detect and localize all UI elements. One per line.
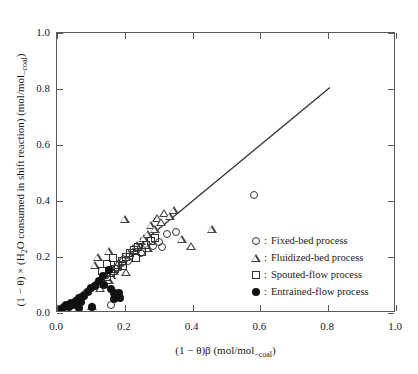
- data-point-triangle-open: [169, 206, 179, 214]
- legend-marker-circle-open-icon: [249, 234, 263, 248]
- square-open-icon: [252, 271, 260, 279]
- legend-marker-triangle-open-icon: [249, 251, 263, 265]
- scatter-plot-figure: (1 − θ) × (H2O consumed in shift reactio…: [0, 0, 418, 374]
- legend-separator: :: [264, 252, 267, 263]
- y-tick-right: [388, 89, 394, 90]
- y-tick: [57, 145, 63, 146]
- x-axis-title: (1 − θ)β (mol/mol−coal): [56, 344, 395, 359]
- data-point-triangle-open: [150, 225, 160, 233]
- x-tick-top: [396, 33, 397, 39]
- x-tick: [125, 305, 126, 311]
- x-tick-top: [125, 33, 126, 39]
- legend-item: :Spouted-flow process: [249, 266, 369, 283]
- y-tick-right: [388, 33, 394, 34]
- legend-item: :Entrained-flow process: [249, 283, 369, 300]
- legend-label: Fixed-bed process: [271, 235, 348, 246]
- data-point-circle-open: [163, 230, 171, 238]
- y-tick-right: [388, 145, 394, 146]
- y-tick-label: 0.4: [22, 194, 50, 206]
- x-tick-label: 0.0: [49, 320, 63, 332]
- y-tick: [57, 201, 63, 202]
- triangle-open-icon: [251, 254, 261, 262]
- data-point-triangle-open: [93, 253, 103, 261]
- x-tick-top: [328, 33, 329, 39]
- x-tick-label: 0.6: [253, 320, 267, 332]
- data-point-circle-filled: [116, 294, 124, 302]
- legend-marker-square-open-icon: [249, 268, 263, 282]
- y-tick-right: [388, 313, 394, 314]
- y-tick-label: 0.2: [22, 250, 50, 262]
- legend-separator: :: [264, 269, 267, 280]
- x-tick-label: 0.8: [320, 320, 334, 332]
- legend-item: :Fixed-bed process: [249, 232, 369, 249]
- x-tick-label: 1.0: [388, 320, 402, 332]
- data-point-triangle-open: [177, 235, 187, 243]
- y-tick-label: 0.0: [22, 306, 50, 318]
- x-tick: [57, 305, 58, 311]
- x-tick: [396, 305, 397, 311]
- legend: :Fixed-bed process:Fluidized-bed process…: [249, 232, 369, 300]
- y-tick: [57, 257, 63, 258]
- legend-separator: :: [264, 235, 267, 246]
- y-tick-label: 0.8: [22, 82, 50, 94]
- data-point-circle-filled: [75, 304, 83, 311]
- y-tick-right: [388, 201, 394, 202]
- y-tick: [57, 33, 63, 34]
- data-point-circle-open: [250, 191, 258, 199]
- x-tick-top: [260, 33, 261, 39]
- x-tick-top: [193, 33, 194, 39]
- legend-label: Fluidized-bed process: [271, 252, 363, 263]
- y-tick: [57, 89, 63, 90]
- legend-item: :Fluidized-bed process: [249, 249, 369, 266]
- x-tick: [260, 305, 261, 311]
- x-tick: [193, 305, 194, 311]
- circle-filled-icon: [252, 288, 260, 296]
- legend-separator: :: [264, 286, 267, 297]
- data-point-square-open: [132, 254, 140, 262]
- data-point-triangle-open: [186, 242, 196, 250]
- data-point-circle-filled: [88, 303, 96, 311]
- data-point-triangle-open: [120, 215, 130, 223]
- data-point-circle-open: [158, 243, 166, 251]
- legend-label: Entrained-flow process: [271, 286, 369, 297]
- y-tick-label: 0.6: [22, 138, 50, 150]
- y-tick-label: 1.0: [22, 26, 50, 38]
- data-point-circle-filled: [100, 281, 108, 289]
- y-tick-right: [388, 257, 394, 258]
- x-tick-label: 0.4: [185, 320, 199, 332]
- x-tick-label: 0.2: [117, 320, 131, 332]
- data-point-circle-filled: [105, 266, 113, 274]
- data-point-square-open: [151, 234, 159, 242]
- legend-marker-circle-filled-icon: [249, 285, 263, 299]
- x-tick: [328, 305, 329, 311]
- circle-open-icon: [252, 237, 260, 245]
- legend-label: Spouted-flow process: [271, 269, 362, 280]
- y-tick: [57, 313, 63, 314]
- data-point-square-open: [119, 262, 127, 270]
- data-point-triangle-open: [207, 225, 217, 233]
- data-point-square-open: [109, 254, 117, 262]
